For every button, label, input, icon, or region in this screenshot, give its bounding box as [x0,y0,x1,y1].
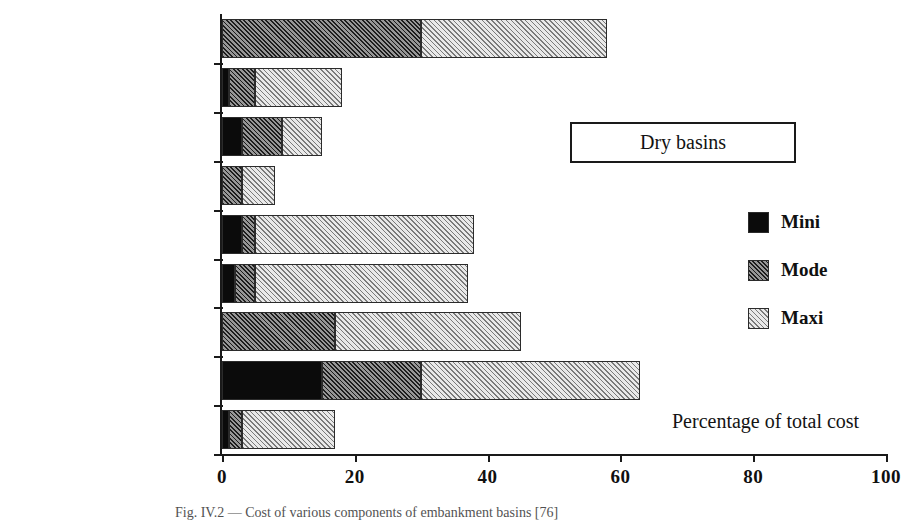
bar-segment-mode [222,166,242,205]
bar-row: Closure dyke [222,14,886,63]
bar-segment-mini [222,361,322,400]
bar-segment-maxi [421,19,607,58]
bar-segment-maxi [242,410,335,449]
x-tick-label-20: 20 [345,466,365,488]
x-tick-20 [355,454,357,462]
bar-row: Embankment works [222,112,886,161]
y-tick [214,454,223,456]
bar-segment-mode [242,215,255,254]
bar-row: Miscellaneous works [222,63,886,112]
bar-segment-mini [222,117,242,156]
figure-dry-basins-cost-chart: Dry basins Mini Mode Maxi Percentage of … [0,0,924,521]
bar-segment-mini [222,264,235,303]
bar-segment-maxi [335,312,521,351]
bar-row: Evacuation discharge [222,259,886,308]
x-tick-100 [886,454,888,462]
x-axis-line [216,454,886,456]
bar-row: Preparation [222,405,886,454]
bar-segment-mode [229,410,242,449]
x-tick-label-60: 60 [610,466,630,488]
x-tick-label-80: 80 [743,466,763,488]
bar-segment-maxi [421,361,640,400]
x-tick-40 [488,454,490,462]
bar-segment-mini [222,215,242,254]
x-tick-label-100: 100 [871,466,901,488]
x-tick-label-0: 0 [217,466,227,488]
bar-segment-mode [242,117,282,156]
bar-segment-mode [222,19,421,58]
bar-segment-maxi [242,166,275,205]
bar-segment-mode [235,264,255,303]
bar-segment-mini [222,68,229,107]
bar-segment-maxi [255,68,341,107]
figure-caption: Fig. IV.2 — Cost of various components o… [175,505,558,521]
x-tick-label-40: 40 [478,466,498,488]
bar-segment-maxi [282,117,322,156]
bar-segment-mode [322,361,422,400]
plot-area: 020406080100 Closure dykeMiscellaneous w… [222,14,886,454]
bar-segment-maxi [255,215,474,254]
bar-segment-mode [229,68,256,107]
bar-segment-mode [222,312,335,351]
bar-row: Earthwork [222,356,886,405]
bar-row: Impermeabilisation [222,307,886,356]
bar-row: Other works [222,210,886,259]
bar-row: Bank protection [222,161,886,210]
bar-segment-mini [222,410,229,449]
x-tick-80 [753,454,755,462]
x-tick-60 [620,454,622,462]
bar-segment-maxi [255,264,467,303]
